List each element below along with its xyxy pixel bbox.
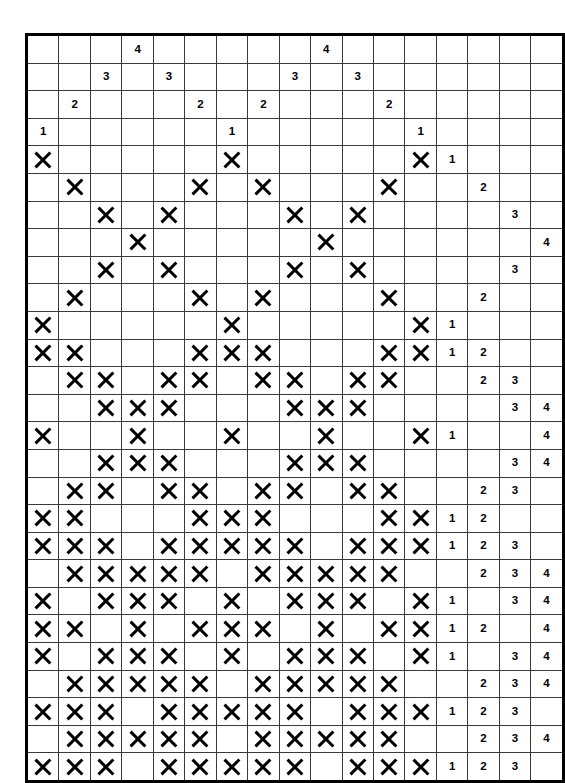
filled-cell[interactable] — [216, 422, 247, 450]
filled-cell[interactable] — [59, 339, 90, 367]
empty-cell[interactable] — [122, 505, 153, 533]
filled-cell[interactable] — [185, 284, 216, 312]
filled-cell[interactable] — [311, 643, 342, 671]
filled-cell[interactable] — [216, 753, 247, 782]
filled-cell[interactable] — [311, 229, 342, 257]
empty-cell[interactable] — [342, 339, 373, 367]
puzzle-row[interactable]: 14 — [27, 422, 564, 450]
filled-cell[interactable] — [27, 643, 59, 671]
empty-cell[interactable] — [27, 201, 59, 229]
filled-cell[interactable] — [90, 201, 121, 229]
filled-cell[interactable] — [90, 698, 121, 726]
filled-cell[interactable] — [279, 698, 310, 726]
empty-cell[interactable] — [405, 725, 436, 753]
empty-cell[interactable] — [216, 725, 247, 753]
empty-cell[interactable] — [405, 449, 436, 477]
filled-cell[interactable] — [279, 725, 310, 753]
empty-cell[interactable] — [27, 394, 59, 422]
filled-cell[interactable] — [90, 670, 121, 698]
filled-cell[interactable] — [405, 146, 436, 174]
filled-cell[interactable] — [27, 146, 59, 174]
empty-cell[interactable] — [216, 284, 247, 312]
empty-cell[interactable] — [248, 201, 279, 229]
puzzle-row[interactable]: 134 — [27, 643, 564, 671]
filled-cell[interactable] — [122, 422, 153, 450]
filled-cell[interactable] — [90, 587, 121, 615]
empty-cell[interactable] — [373, 394, 404, 422]
empty-cell[interactable] — [311, 753, 342, 782]
empty-cell[interactable] — [279, 311, 310, 339]
filled-cell[interactable] — [311, 449, 342, 477]
filled-cell[interactable] — [279, 256, 310, 284]
empty-cell[interactable] — [248, 146, 279, 174]
empty-cell[interactable] — [153, 615, 184, 643]
empty-cell[interactable] — [216, 477, 247, 505]
empty-cell[interactable] — [342, 505, 373, 533]
empty-cell[interactable] — [90, 173, 121, 201]
empty-cell[interactable] — [122, 339, 153, 367]
puzzle-row[interactable]: 123 — [27, 753, 564, 782]
filled-cell[interactable] — [59, 725, 90, 753]
filled-cell[interactable] — [248, 173, 279, 201]
filled-cell[interactable] — [153, 477, 184, 505]
empty-cell[interactable] — [216, 449, 247, 477]
empty-cell[interactable] — [90, 146, 121, 174]
filled-cell[interactable] — [342, 449, 373, 477]
puzzle-row[interactable]: 1 — [27, 311, 564, 339]
puzzle-row[interactable]: 34 — [27, 394, 564, 422]
empty-cell[interactable] — [153, 339, 184, 367]
empty-cell[interactable] — [405, 394, 436, 422]
filled-cell[interactable] — [405, 615, 436, 643]
empty-cell[interactable] — [405, 367, 436, 395]
filled-cell[interactable] — [279, 449, 310, 477]
filled-cell[interactable] — [90, 725, 121, 753]
empty-cell[interactable] — [59, 311, 90, 339]
filled-cell[interactable] — [248, 532, 279, 560]
puzzle-row[interactable]: 2 — [27, 173, 564, 201]
puzzle-row[interactable]: 234 — [27, 560, 564, 588]
filled-cell[interactable] — [90, 449, 121, 477]
puzzle-row[interactable]: 3 — [27, 256, 564, 284]
filled-cell[interactable] — [248, 284, 279, 312]
empty-cell[interactable] — [153, 505, 184, 533]
filled-cell[interactable] — [373, 532, 404, 560]
empty-cell[interactable] — [405, 229, 436, 257]
filled-cell[interactable] — [216, 587, 247, 615]
empty-cell[interactable] — [59, 587, 90, 615]
empty-cell[interactable] — [373, 449, 404, 477]
filled-cell[interactable] — [405, 532, 436, 560]
filled-cell[interactable] — [59, 284, 90, 312]
filled-cell[interactable] — [59, 670, 90, 698]
empty-cell[interactable] — [122, 311, 153, 339]
empty-cell[interactable] — [216, 560, 247, 588]
filled-cell[interactable] — [153, 643, 184, 671]
empty-cell[interactable] — [342, 422, 373, 450]
empty-cell[interactable] — [27, 256, 59, 284]
filled-cell[interactable] — [216, 146, 247, 174]
empty-cell[interactable] — [59, 146, 90, 174]
filled-cell[interactable] — [279, 643, 310, 671]
filled-cell[interactable] — [185, 505, 216, 533]
filled-cell[interactable] — [342, 725, 373, 753]
filled-cell[interactable] — [27, 587, 59, 615]
filled-cell[interactable] — [27, 753, 59, 782]
filled-cell[interactable] — [153, 201, 184, 229]
filled-cell[interactable] — [122, 615, 153, 643]
empty-cell[interactable] — [216, 670, 247, 698]
filled-cell[interactable] — [373, 725, 404, 753]
empty-cell[interactable] — [216, 256, 247, 284]
empty-cell[interactable] — [153, 146, 184, 174]
empty-cell[interactable] — [373, 146, 404, 174]
filled-cell[interactable] — [122, 560, 153, 588]
filled-cell[interactable] — [153, 394, 184, 422]
empty-cell[interactable] — [59, 229, 90, 257]
filled-cell[interactable] — [59, 173, 90, 201]
empty-cell[interactable] — [405, 477, 436, 505]
empty-cell[interactable] — [373, 201, 404, 229]
filled-cell[interactable] — [122, 229, 153, 257]
empty-cell[interactable] — [311, 201, 342, 229]
filled-cell[interactable] — [405, 753, 436, 782]
empty-cell[interactable] — [27, 173, 59, 201]
empty-cell[interactable] — [27, 725, 59, 753]
empty-cell[interactable] — [185, 201, 216, 229]
